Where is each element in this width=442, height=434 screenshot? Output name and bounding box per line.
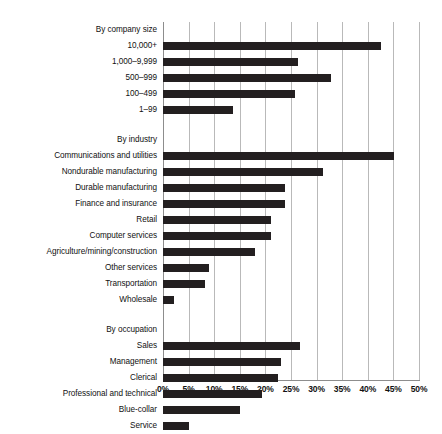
bar xyxy=(163,264,209,272)
bar-row: Wholesale xyxy=(0,292,442,308)
bar xyxy=(163,280,205,288)
bar xyxy=(163,358,281,366)
category-label: 10,000+ xyxy=(0,38,157,54)
category-label: Blue-collar xyxy=(0,402,157,418)
category-label: Durable manufacturing xyxy=(0,180,157,196)
category-label: Sales xyxy=(0,338,157,354)
category-label: Retail xyxy=(0,212,157,228)
category-label: 100–499 xyxy=(0,86,157,102)
bar xyxy=(163,390,262,398)
group-heading-label: By industry xyxy=(0,132,157,148)
category-label: Communications and utilities xyxy=(0,148,157,164)
bar xyxy=(163,168,323,176)
category-label: Management xyxy=(0,354,157,370)
bar xyxy=(163,374,278,382)
bar xyxy=(163,342,300,350)
bar-row: Clerical xyxy=(0,370,442,386)
group-heading-label: By company size xyxy=(0,22,157,38)
bar xyxy=(163,422,189,430)
bar xyxy=(163,296,174,304)
bar-row: Computer services xyxy=(0,228,442,244)
group-heading-label: By occupation xyxy=(0,322,157,338)
bar xyxy=(163,152,394,160)
bar-row: Retail xyxy=(0,212,442,228)
bar xyxy=(163,232,271,240)
bar xyxy=(163,106,233,114)
bar-row: Transportation xyxy=(0,276,442,292)
category-label: 1,000–9,999 xyxy=(0,54,157,70)
bar-row: Professional and technical xyxy=(0,386,442,402)
bar-row: Agriculture/mining/construction xyxy=(0,244,442,260)
bar-row: Durable manufacturing xyxy=(0,180,442,196)
group-heading-row: By occupation xyxy=(0,322,442,338)
bar xyxy=(163,74,331,82)
category-label: Wholesale xyxy=(0,292,157,308)
bar-row: Sales xyxy=(0,338,442,354)
category-label: Transportation xyxy=(0,276,157,292)
bar xyxy=(163,248,255,256)
group-heading-row: By company size xyxy=(0,22,442,38)
category-label: Professional and technical xyxy=(0,386,157,402)
bar-row: 100–499 xyxy=(0,86,442,102)
bar-row: 500–999 xyxy=(0,70,442,86)
category-label: Other services xyxy=(0,260,157,276)
category-label: Service xyxy=(0,418,157,434)
category-label: 1–99 xyxy=(0,102,157,118)
bar xyxy=(163,406,240,414)
bar-row: 1,000–9,999 xyxy=(0,54,442,70)
bar-row: Finance and insurance xyxy=(0,196,442,212)
bar-row: Other services xyxy=(0,260,442,276)
bar-row: Nondurable manufacturing xyxy=(0,164,442,180)
bar xyxy=(163,90,295,98)
bar-row: Blue-collar xyxy=(0,402,442,418)
bar xyxy=(163,42,381,50)
bar-row: Service xyxy=(0,418,442,434)
category-label: 500–999 xyxy=(0,70,157,86)
category-label: Clerical xyxy=(0,370,157,386)
category-label: Computer services xyxy=(0,228,157,244)
bar-row: 10,000+ xyxy=(0,38,442,54)
bar xyxy=(163,58,298,66)
category-label: Agriculture/mining/construction xyxy=(0,244,157,260)
category-label: Nondurable manufacturing xyxy=(0,164,157,180)
group-heading-row: By industry xyxy=(0,132,442,148)
bar xyxy=(163,184,285,192)
bar-row: Communications and utilities xyxy=(0,148,442,164)
category-label: Finance and insurance xyxy=(0,196,157,212)
bar-row: 1–99 xyxy=(0,102,442,118)
bar xyxy=(163,216,271,224)
bar xyxy=(163,200,285,208)
bar-row: Management xyxy=(0,354,442,370)
